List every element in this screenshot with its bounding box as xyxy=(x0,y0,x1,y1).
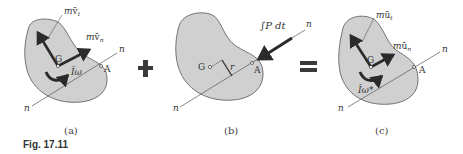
figure-number: Fig. 17.11 xyxy=(23,140,68,150)
label-impulse-b: ∫P dt xyxy=(260,21,286,31)
label-mvn-a: mv̄n xyxy=(86,33,104,43)
rigid-body-c xyxy=(339,16,418,104)
label-couple-a: Īω xyxy=(71,68,82,77)
label-mun-c: mūn xyxy=(393,42,411,52)
equals-operator-top xyxy=(300,61,317,65)
point-g-b xyxy=(208,65,211,68)
label-n-lower-c: n xyxy=(338,104,344,113)
label-a-c: A xyxy=(419,66,426,75)
label-r-b: r xyxy=(230,63,234,72)
label-n-lower-a: n xyxy=(24,104,30,113)
point-g-c xyxy=(369,65,372,68)
point-a-c xyxy=(413,66,416,69)
panel-c xyxy=(339,16,440,107)
point-g-a xyxy=(56,64,59,67)
caption-b: (b) xyxy=(224,126,238,136)
label-n-lower-b: n xyxy=(173,104,179,113)
point-a-a xyxy=(100,65,103,68)
caption-a: (a) xyxy=(64,126,78,136)
label-n-upper-a: n xyxy=(119,45,125,54)
label-g-c: G xyxy=(367,56,374,65)
label-couple-c: Īω* xyxy=(358,86,373,95)
label-n-upper-c: n xyxy=(442,45,448,54)
label-g-b: G xyxy=(198,63,205,72)
label-g-a: G xyxy=(55,55,62,64)
caption-c: (c) xyxy=(375,126,388,136)
label-n-upper-b: n xyxy=(306,20,312,29)
label-a-a: A xyxy=(104,65,111,74)
rigid-body-b xyxy=(176,13,263,100)
label-mvt-a: mv̄t xyxy=(64,7,80,17)
label-mut-c: mūt xyxy=(376,11,393,21)
panel-a xyxy=(25,15,117,106)
impulse-vector-b xyxy=(259,38,292,59)
equals-operator-bottom xyxy=(300,68,317,72)
plus-operator-v xyxy=(143,60,148,77)
label-a-b: A xyxy=(254,66,261,75)
